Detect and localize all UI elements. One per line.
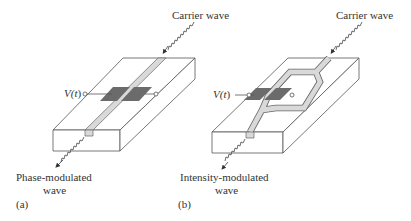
panel-a-output-label-line1: Phase-modulated xyxy=(16,172,92,183)
panel-b-tag: (b) xyxy=(178,199,191,210)
panel-a-tag: (a) xyxy=(16,199,28,210)
modulator-diagram: Carrier wave V(t) Phase-modulated wave (… xyxy=(0,0,411,221)
panel-a-input-label: Carrier wave xyxy=(172,10,229,21)
panel-b-voltage-label: V(t) xyxy=(213,89,230,100)
panel-a-input-wave xyxy=(164,22,194,52)
terminal-right xyxy=(290,93,294,97)
panel-b-output-label-line1: Intensity-modulated xyxy=(180,172,269,183)
voltage-close: ) xyxy=(226,88,230,100)
panel-b-input-wave xyxy=(332,22,362,52)
panel-b-output-label-line2: wave xyxy=(215,185,238,196)
voltage-v: V( xyxy=(213,88,223,100)
panel-a-output-label-line2: wave xyxy=(43,185,66,196)
panel-a-voltage-label: V(t) xyxy=(64,88,81,99)
panel-a-block xyxy=(53,58,195,151)
terminal-right xyxy=(154,92,158,96)
terminal-left xyxy=(83,92,87,96)
voltage-v: V( xyxy=(64,87,74,99)
voltage-close: ) xyxy=(77,87,81,99)
panel-b-input-label: Carrier wave xyxy=(336,10,393,21)
terminal-left xyxy=(247,93,251,97)
